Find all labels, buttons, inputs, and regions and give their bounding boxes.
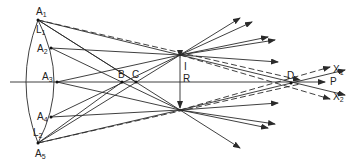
label-l1: L1 (36, 24, 46, 36)
label-i: I (184, 61, 187, 72)
rays-extra (180, 55, 345, 110)
label-a2: A2 (37, 43, 48, 55)
label-a1: A1 (36, 6, 47, 18)
rays-a1 (38, 20, 300, 148)
label-a4: A4 (37, 111, 48, 123)
label-p: P (330, 76, 337, 87)
label-a5: A5 (35, 148, 46, 160)
label-x1: X1 (333, 64, 344, 76)
label-l2: L2 (33, 127, 43, 139)
optics-diagram: A1 L1 A2 A3 A4 L2 A5 B C I R D P X1 X2 (0, 0, 353, 162)
label-a3: A3 (42, 71, 53, 83)
rays-a5 (38, 18, 300, 143)
label-r: R (183, 73, 190, 84)
label-b: B (118, 69, 125, 80)
label-c: C (132, 69, 139, 80)
label-d: D (287, 70, 294, 81)
label-x2: X2 (333, 91, 344, 103)
